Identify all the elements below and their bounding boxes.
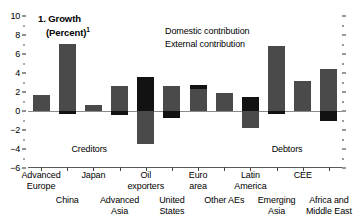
bar-segment-domestic: [190, 89, 207, 111]
x-category-label: Other AEs: [197, 195, 251, 206]
x-category-label: United States: [145, 195, 199, 216]
bar-segment-external: [268, 111, 285, 114]
bar-segment-external: [190, 85, 207, 89]
y-axis-right-tick-mark: [342, 130, 346, 131]
y-tick-mark: [22, 92, 26, 93]
y-minor-tick-mark: [23, 101, 25, 102]
y-tick-mark: [22, 168, 26, 169]
y-minor-tick-mark: [23, 82, 25, 83]
y-axis-right-tick-mark: [342, 111, 346, 112]
bar-segment-external: [242, 97, 259, 111]
bar-segment-domestic: [294, 81, 311, 111]
y-tick-mark: [22, 54, 26, 55]
y-tick-mark: [22, 73, 26, 74]
x-category-label: China: [40, 195, 94, 206]
bar-segment-domestic: [268, 46, 285, 111]
x-category-label: Advanced Asia: [93, 195, 147, 216]
bar-segment-external: [59, 111, 76, 114]
y-tick-label: −4: [10, 145, 20, 154]
y-minor-tick-mark: [23, 44, 25, 45]
bar-segment-external: [137, 77, 154, 111]
x-category-label: Advanced Europe: [14, 170, 68, 191]
y-axis-right-tick-mark: [342, 35, 346, 36]
y-tick-mark: [22, 35, 26, 36]
y-tick-label: 0: [15, 107, 20, 116]
bar-segment-external: [163, 111, 180, 118]
bar-segment-domestic: [137, 111, 154, 144]
x-category-label: Latin America: [223, 170, 277, 191]
y-axis-right-tick-mark: [342, 54, 346, 55]
y-axis: 1086420−2−4−6: [0, 16, 26, 168]
y-tick-label: 10: [10, 12, 20, 21]
y-axis-right-tick-mark: [342, 120, 344, 121]
x-category-label: Euro area: [171, 170, 225, 191]
x-category-label: Africa and Middle East: [302, 195, 356, 216]
y-tick-mark: [22, 16, 26, 17]
bar-segment-domestic: [85, 105, 102, 111]
y-tick-label: 8: [15, 31, 20, 40]
y-axis-right-tick-mark: [342, 92, 346, 93]
bar-segment-domestic: [111, 86, 128, 111]
bar-segment-domestic: [33, 95, 50, 111]
y-axis-right-tick-mark: [342, 82, 344, 83]
y-axis-right-tick-mark: [342, 44, 344, 45]
x-category-label: Emerging Asia: [250, 195, 304, 216]
plot-area: Creditors Debtors: [28, 16, 342, 168]
bar-segment-domestic: [163, 86, 180, 111]
x-category-label: Japan: [66, 170, 120, 181]
y-tick-label: 2: [15, 88, 20, 97]
annotation-creditors: Creditors: [71, 144, 107, 154]
bar-segment-domestic: [242, 111, 259, 128]
y-axis-right-tick-mark: [342, 168, 346, 169]
y-axis-right-tick-mark: [342, 158, 344, 159]
bar-segment-external: [111, 111, 128, 115]
y-tick-mark: [22, 149, 26, 150]
bar-segment-domestic: [59, 44, 76, 111]
y-minor-tick-mark: [23, 139, 25, 140]
y-axis-right-tick-mark: [342, 101, 344, 102]
y-tick-label: −2: [10, 126, 20, 135]
y-minor-tick-mark: [23, 25, 25, 26]
x-category-label: Oil exporters: [119, 170, 173, 191]
bar-segment-domestic: [320, 69, 337, 111]
bar-segment-external: [320, 111, 337, 121]
y-minor-tick-mark: [23, 158, 25, 159]
y-axis-right-ticks: [342, 16, 347, 168]
y-axis-right-tick-mark: [342, 73, 346, 74]
x-axis-category-labels: Advanced EuropeChinaJapanAdvanced AsiaOi…: [0, 170, 347, 224]
y-axis-right-tick-mark: [342, 149, 346, 150]
y-minor-tick-mark: [23, 63, 25, 64]
y-tick-mark: [22, 111, 26, 112]
annotation-debtors: Debtors: [272, 144, 303, 154]
x-category-label: CEE: [276, 170, 330, 181]
y-tick-label: 6: [15, 50, 20, 59]
y-axis-right-tick-mark: [342, 139, 344, 140]
y-tick-mark: [22, 130, 26, 131]
y-axis-right-tick-mark: [342, 25, 344, 26]
y-tick-label: 4: [15, 69, 20, 78]
bar-segment-domestic: [216, 93, 233, 111]
y-axis-right-tick-mark: [342, 16, 346, 17]
y-axis-right-tick-mark: [342, 63, 344, 64]
y-minor-tick-mark: [23, 120, 25, 121]
